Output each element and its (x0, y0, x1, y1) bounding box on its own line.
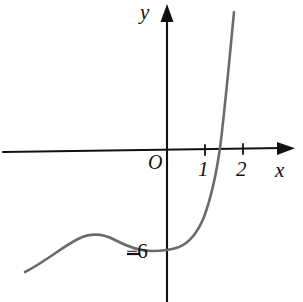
x-tick-label-2: 2 (236, 159, 247, 180)
origin-label: O (148, 152, 162, 172)
x-axis-line (3, 148, 283, 152)
x-axis-label: x (275, 160, 284, 181)
curve-group (25, 12, 234, 272)
x-tick-label-1: 1 (198, 159, 209, 180)
x-axis-arrowhead (277, 142, 295, 155)
y-axis-arrowhead (161, 4, 174, 22)
y-axis-label: y (140, 2, 149, 23)
y-value-label-minus-six: −6 (126, 241, 147, 262)
graph-figure: y x O 1 2 −6 (0, 0, 303, 302)
cubic-curve (25, 12, 234, 272)
